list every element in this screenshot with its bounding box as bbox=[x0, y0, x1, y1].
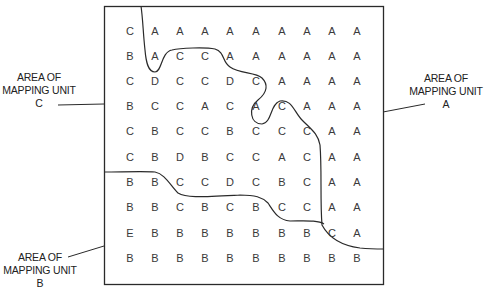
grid-cell: C bbox=[252, 75, 260, 87]
grid-cell: C bbox=[176, 176, 184, 188]
grid-cell: C bbox=[201, 75, 209, 87]
grid-cell: A bbox=[328, 125, 336, 137]
grid-cell: C bbox=[252, 151, 260, 163]
grid-cell: C bbox=[126, 75, 134, 87]
soil-grid: CAAAAAAAAABACCAAAAAACDCCDCAAAABCCACACAAA… bbox=[126, 25, 361, 264]
grid-cell: C bbox=[201, 176, 209, 188]
grid-cell: A bbox=[226, 25, 234, 37]
label-line: AREA OF bbox=[405, 72, 487, 85]
grid-cell: C bbox=[226, 151, 234, 163]
grid-cell: B bbox=[176, 227, 183, 239]
grid-cell: A bbox=[328, 176, 336, 188]
grid-cell: A bbox=[303, 75, 311, 87]
grid-cell: B bbox=[328, 252, 335, 264]
grid-cell: D bbox=[151, 75, 159, 87]
grid-cell: D bbox=[176, 151, 184, 163]
grid-cell: B bbox=[126, 100, 133, 112]
grid-cell: B bbox=[151, 227, 158, 239]
label-line: MAPPING UNIT bbox=[405, 85, 487, 98]
grid-cell: C bbox=[226, 201, 234, 213]
grid-cell: B bbox=[151, 201, 158, 213]
label-mapping-unit-b: AREA OF MAPPING UNIT B bbox=[2, 251, 78, 290]
grid-cell: B bbox=[252, 227, 259, 239]
grid-cell: D bbox=[226, 75, 234, 87]
grid-cell: C bbox=[151, 100, 159, 112]
grid-cell: C bbox=[201, 125, 209, 137]
grid-cell: A bbox=[353, 201, 361, 213]
grid-cell: C bbox=[303, 125, 311, 137]
grid-cell: B bbox=[126, 252, 133, 264]
grid-cell: B bbox=[226, 252, 233, 264]
grid-cell: A bbox=[353, 50, 361, 62]
grid-cell: A bbox=[353, 125, 361, 137]
label-line: MAPPING UNIT bbox=[2, 84, 76, 97]
grid-cell: A bbox=[328, 50, 336, 62]
grid-cell: B bbox=[278, 252, 285, 264]
grid-cell: B bbox=[151, 252, 158, 264]
grid-cell: C bbox=[176, 125, 184, 137]
grid-cell: B bbox=[126, 50, 133, 62]
grid-cell: A bbox=[151, 25, 159, 37]
grid-cell: B bbox=[201, 227, 208, 239]
grid-cell: C bbox=[201, 50, 209, 62]
grid-cell: B bbox=[151, 176, 158, 188]
grid-cell: C bbox=[176, 201, 184, 213]
label-mapping-unit-c: AREA OF MAPPING UNIT C bbox=[2, 71, 76, 110]
grid-cell: A bbox=[328, 201, 336, 213]
grid-cell: A bbox=[353, 151, 361, 163]
grid-cell: B bbox=[201, 151, 208, 163]
grid-cell: B bbox=[278, 176, 285, 188]
grid-cell: B bbox=[151, 151, 158, 163]
grid-cell: A bbox=[226, 50, 234, 62]
grid-cell: B bbox=[176, 252, 183, 264]
grid-cell: D bbox=[226, 176, 234, 188]
grid-cell: A bbox=[328, 100, 336, 112]
grid-cell: B bbox=[201, 201, 208, 213]
grid-cell: A bbox=[353, 227, 361, 239]
grid-cell: C bbox=[176, 75, 184, 87]
grid-cell: B bbox=[303, 252, 310, 264]
label-line: AREA OF bbox=[2, 251, 78, 264]
grid-cell: B bbox=[126, 201, 133, 213]
grid-cell: A bbox=[252, 50, 260, 62]
grid-cell: A bbox=[328, 25, 336, 37]
grid-cell: C bbox=[226, 100, 234, 112]
grid-cell: A bbox=[278, 75, 286, 87]
label-unit-letter: A bbox=[405, 98, 487, 111]
label-mapping-unit-a: AREA OF MAPPING UNIT A bbox=[405, 72, 487, 111]
grid-cell: A bbox=[353, 25, 361, 37]
grid-cell: C bbox=[126, 125, 134, 137]
grid-cell: A bbox=[278, 151, 286, 163]
grid-cell: E bbox=[126, 227, 133, 239]
grid-cell: B bbox=[126, 176, 133, 188]
grid-cell: B bbox=[353, 252, 360, 264]
grid-cell: A bbox=[303, 50, 311, 62]
grid-cell: A bbox=[201, 100, 209, 112]
grid-cell: A bbox=[176, 25, 184, 37]
grid-cell: C bbox=[303, 201, 311, 213]
grid-cell: C bbox=[176, 100, 184, 112]
grid-cell: C bbox=[126, 25, 134, 37]
grid-cell: C bbox=[252, 125, 260, 137]
grid-cell: B bbox=[252, 252, 259, 264]
grid-cell: A bbox=[303, 25, 311, 37]
grid-cell: A bbox=[328, 151, 336, 163]
grid-cell: A bbox=[252, 25, 260, 37]
grid-cell: B bbox=[226, 125, 233, 137]
grid-cell: C bbox=[278, 201, 286, 213]
grid-cell: B bbox=[252, 201, 259, 213]
grid-cell: C bbox=[126, 151, 134, 163]
grid-cell: C bbox=[278, 125, 286, 137]
label-line: MAPPING UNIT bbox=[2, 264, 78, 277]
grid-cell: B bbox=[303, 227, 310, 239]
boundary-line-c-b bbox=[104, 172, 324, 224]
grid-cell: A bbox=[328, 75, 336, 87]
grid-cell: A bbox=[201, 25, 209, 37]
grid-cell: C bbox=[252, 176, 260, 188]
label-unit-letter: B bbox=[2, 277, 78, 290]
grid-cell: A bbox=[252, 100, 260, 112]
grid-cell: A bbox=[278, 50, 286, 62]
grid-cell: A bbox=[353, 100, 361, 112]
grid-cell: A bbox=[151, 50, 159, 62]
grid-cell: A bbox=[353, 75, 361, 87]
